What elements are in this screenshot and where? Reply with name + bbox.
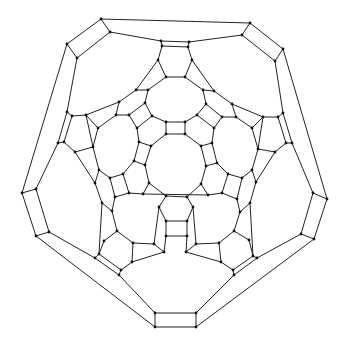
graph-node: [115, 114, 118, 117]
graph-edge: [95, 170, 99, 183]
graph-node: [153, 243, 156, 246]
graph-edge: [234, 212, 240, 231]
graph-edge: [186, 244, 196, 252]
graph-node: [165, 76, 168, 79]
graph-node: [98, 169, 101, 172]
graph-edge: [104, 231, 117, 241]
graph-edge: [232, 104, 263, 117]
graph-node: [144, 102, 147, 105]
graph-edge: [129, 103, 145, 115]
graph-edge: [119, 275, 155, 313]
graph-node: [160, 40, 163, 43]
graph-edge: [219, 243, 221, 262]
graph-edge: [64, 142, 75, 152]
graph-node: [326, 198, 329, 201]
graph-node: [165, 220, 168, 223]
graph-edge: [242, 170, 252, 178]
graph-edge: [36, 143, 58, 189]
graph-edge: [187, 207, 193, 221]
graph-edge: [93, 147, 99, 170]
graph-node: [195, 312, 198, 315]
graph-edge: [203, 90, 206, 104]
graph-edge: [222, 193, 237, 199]
graph-node: [285, 142, 288, 145]
graph-node: [191, 59, 194, 62]
graph-edge: [99, 170, 110, 178]
graph-node: [158, 206, 161, 209]
graph-edge: [143, 183, 149, 194]
graph-node: [249, 22, 252, 25]
graph-node: [122, 173, 125, 176]
graph-edge: [119, 90, 136, 102]
graph-node: [282, 112, 285, 115]
graph-edge: [292, 143, 313, 193]
graph-node: [312, 192, 315, 195]
graph-edge: [275, 49, 283, 61]
graph-edge: [212, 143, 217, 163]
graph-edge: [208, 193, 222, 195]
graph-edge: [237, 178, 242, 199]
graph-node: [98, 253, 101, 256]
graph-edge: [188, 47, 192, 60]
graph-edge: [133, 243, 154, 244]
graph-node: [213, 90, 216, 93]
graph-edge: [22, 189, 36, 193]
graph-edge: [222, 174, 228, 193]
graph-node: [157, 59, 160, 62]
graph-edge: [196, 275, 234, 313]
graph-node: [313, 238, 316, 241]
graph-node: [21, 192, 24, 195]
graph-edge: [256, 152, 275, 182]
graph-edge: [258, 149, 275, 152]
graph-node: [233, 230, 236, 233]
graph-node: [138, 141, 141, 144]
graph-edge: [301, 234, 314, 239]
graph-node: [92, 146, 95, 149]
graph-edge: [148, 77, 166, 90]
graph-node: [133, 160, 136, 163]
graph-node: [66, 111, 69, 114]
graph-node: [116, 230, 119, 233]
graph-node: [161, 45, 164, 48]
graph-node: [66, 43, 69, 46]
graph-edge: [313, 193, 327, 199]
graph-node: [274, 60, 277, 63]
graph-node: [150, 145, 153, 148]
graph-edge: [137, 116, 152, 128]
graph-edge: [151, 134, 166, 146]
graph-edge: [99, 254, 121, 270]
graph-edge: [75, 147, 93, 152]
graph-node: [256, 257, 259, 260]
graph-edge: [185, 60, 192, 77]
graph-edge: [123, 161, 134, 174]
graph-node: [35, 188, 38, 191]
graph-node: [291, 142, 294, 145]
graph-node: [221, 192, 224, 195]
graph-edge: [117, 231, 133, 243]
graph-node: [135, 89, 138, 92]
graph-edge: [217, 163, 228, 174]
graph-edge: [203, 90, 214, 91]
graph-node: [251, 169, 254, 172]
graph-edge: [187, 197, 193, 207]
graph-edge: [116, 102, 119, 115]
graph-node: [165, 195, 168, 198]
graph-node: [128, 114, 131, 117]
graph-node: [262, 116, 265, 119]
graph-node: [241, 34, 244, 37]
graph-edge: [201, 143, 212, 146]
graph-node: [74, 151, 77, 154]
graph-node: [255, 181, 258, 184]
graph-node: [195, 326, 198, 329]
graph-edge: [102, 203, 112, 211]
graph-node: [205, 165, 208, 168]
graph-node: [300, 233, 303, 236]
graph-node: [185, 251, 188, 254]
graph-edge: [240, 203, 250, 212]
graph-edge: [206, 163, 217, 166]
graph-node: [184, 133, 187, 136]
graph-node: [220, 261, 223, 264]
graph-edge: [67, 44, 77, 58]
graph-edge: [212, 128, 214, 143]
graph-nodes: [21, 18, 329, 329]
